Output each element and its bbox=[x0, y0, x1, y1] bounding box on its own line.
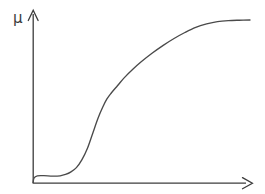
figure-container: μ bbox=[0, 0, 265, 194]
y-axis-label: μ bbox=[13, 9, 23, 27]
membership-curve bbox=[33, 20, 250, 183]
plot-canvas: μ bbox=[0, 0, 265, 194]
